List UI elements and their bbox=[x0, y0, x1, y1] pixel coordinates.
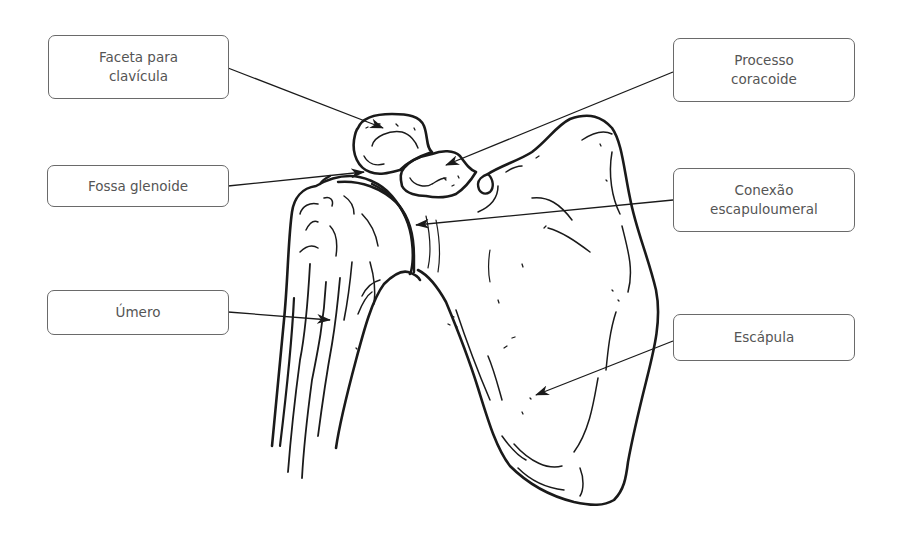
label-escapula: Escápula bbox=[673, 314, 855, 361]
label-processo-coracoide: Processo coracoide bbox=[673, 38, 855, 102]
label-faceta-clavicula-text: Faceta para clavícula bbox=[99, 48, 178, 86]
label-processo-coracoide-text: Processo coracoide bbox=[731, 51, 797, 89]
arrow-umero bbox=[228, 312, 330, 320]
arrow-faceta-clavicula bbox=[228, 68, 383, 128]
leader-lines bbox=[228, 68, 673, 395]
humerus-drawing bbox=[272, 176, 420, 478]
label-conexao-escapuloumeral: Conexão escapuloumeral bbox=[673, 168, 855, 232]
scapula-drawing bbox=[418, 116, 658, 505]
label-conexao-escapuloumeral-text: Conexão escapuloumeral bbox=[710, 181, 818, 219]
arrow-escapula bbox=[536, 341, 673, 395]
label-escapula-text: Escápula bbox=[734, 328, 794, 347]
label-faceta-clavicula: Faceta para clavícula bbox=[48, 35, 229, 99]
label-umero-text: Úmero bbox=[116, 303, 161, 322]
arrow-processo-coracoide bbox=[446, 72, 673, 165]
label-umero: Úmero bbox=[47, 290, 229, 335]
label-fossa-glenoide-text: Fossa glenoide bbox=[88, 177, 188, 196]
arrow-fossa-glenoide bbox=[228, 172, 364, 186]
label-fossa-glenoide: Fossa glenoide bbox=[47, 165, 229, 207]
